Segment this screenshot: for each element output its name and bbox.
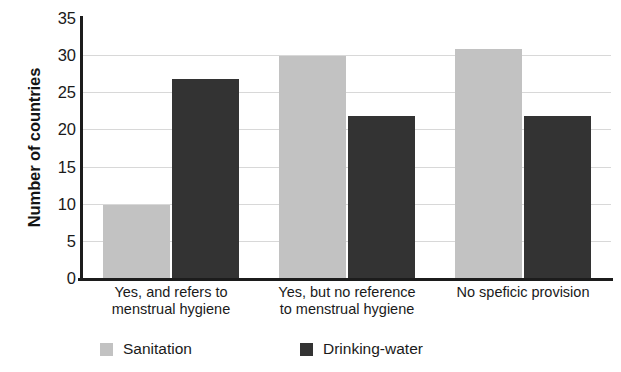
y-axis-tick-label: 0	[42, 270, 76, 287]
x-axis-category-label-1: Yes, and refers tomenstrual hygiene	[83, 284, 259, 318]
gridline	[83, 55, 611, 56]
y-axis-line	[80, 16, 83, 280]
legend-item-drinking-water[interactable]: Drinking-water	[300, 340, 423, 358]
y-axis-tick-label: 35	[42, 10, 76, 27]
category-label-line: menstrual hygiene	[83, 301, 259, 318]
legend-label: Drinking-water	[323, 340, 423, 358]
y-axis-tick-label: 15	[42, 159, 76, 176]
x-axis-category-label-2: Yes, but no referenceto menstrual hygien…	[259, 284, 435, 318]
y-axis-tick-label: 30	[42, 47, 76, 64]
chart-legend: SanitationDrinking-water	[0, 340, 621, 370]
plot-area	[83, 18, 611, 278]
bar-sanitation-1	[103, 205, 170, 278]
bar-drinking-water-1	[172, 79, 239, 278]
x-axis-line	[78, 278, 613, 281]
x-axis-category-label-3: No speficic provision	[435, 284, 611, 301]
bar-sanitation-3	[455, 49, 522, 278]
bar-sanitation-2	[279, 56, 346, 278]
legend-swatch-icon	[100, 343, 113, 356]
category-label-line: No speficic provision	[435, 284, 611, 301]
y-axis-tick-label: 25	[42, 84, 76, 101]
x-axis-category-labels: Yes, and refers tomenstrual hygieneYes, …	[83, 284, 611, 328]
bar-drinking-water-2	[348, 116, 415, 278]
gridline	[83, 92, 611, 93]
y-axis-tick-label: 5	[42, 233, 76, 250]
y-axis-tick-label: 20	[42, 121, 76, 138]
y-axis-tick-labels: 35302520151050	[38, 18, 76, 278]
legend-swatch-icon	[300, 343, 313, 356]
category-label-line: Yes, but no reference	[259, 284, 435, 301]
bar-chart: Number of countries 35302520151050 Yes, …	[0, 0, 621, 372]
category-label-line: to menstrual hygiene	[259, 301, 435, 318]
category-label-line: Yes, and refers to	[83, 284, 259, 301]
y-axis-tick-label: 10	[42, 196, 76, 213]
legend-label: Sanitation	[123, 340, 192, 358]
legend-item-sanitation[interactable]: Sanitation	[100, 340, 192, 358]
bar-drinking-water-3	[524, 116, 591, 278]
